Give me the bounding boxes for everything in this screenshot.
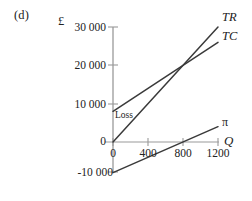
series-label-tc: TC <box>222 29 237 44</box>
x-axis-label: Q <box>224 133 233 149</box>
y-tick-label-30000: 30 000 <box>74 21 106 33</box>
x-tick-label-400: 400 <box>134 147 162 159</box>
series-label-tr: TR <box>222 10 237 25</box>
loss-annotation: Loss <box>115 110 133 120</box>
series-line-tc <box>113 42 218 111</box>
series-label-pi: π <box>222 115 228 130</box>
y-tick-label-0: 0 <box>100 135 106 147</box>
figure-panel: (d) £ 30 000 20 000 10 000 0 -10 00 <box>0 0 252 201</box>
y-tick-label-10000: 10 000 <box>74 98 106 110</box>
y-tick-label-minus10000: -10 000 <box>78 166 113 178</box>
y-tick-label-20000: 20 000 <box>74 59 106 71</box>
series-line-tr <box>113 27 218 142</box>
x-tick-label-0: 0 <box>105 147 121 159</box>
x-tick-label-800: 800 <box>169 147 197 159</box>
chart-plot-area <box>0 0 252 201</box>
